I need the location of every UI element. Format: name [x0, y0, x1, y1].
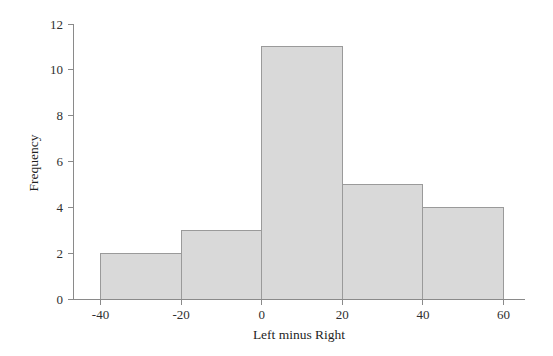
- histogram-bar: [342, 185, 423, 300]
- y-tick-label: 10: [50, 62, 63, 77]
- x-tick-label: -40: [92, 307, 109, 322]
- histogram-bars: [101, 47, 504, 300]
- y-axis-title: Frequency: [26, 134, 41, 191]
- histogram-bar: [101, 254, 182, 300]
- y-tick-label: 0: [57, 292, 64, 307]
- x-tick-label: 0: [258, 307, 265, 322]
- histogram-bar: [262, 47, 343, 300]
- x-tick-label: 60: [497, 307, 510, 322]
- y-axis-ticks: 121086420: [50, 17, 74, 308]
- x-tick-label: 40: [416, 307, 429, 322]
- x-tick-label: 20: [336, 307, 349, 322]
- histogram-bar: [181, 231, 262, 300]
- histogram-plot: 121086420 -40-200204060 Frequency Left m…: [0, 0, 553, 356]
- y-tick-label: 8: [57, 108, 64, 123]
- histogram-figure: 121086420 -40-200204060 Frequency Left m…: [0, 0, 553, 356]
- histogram-bar: [423, 208, 504, 300]
- y-tick-label: 6: [57, 154, 64, 169]
- x-axis-title: Left minus Right: [253, 327, 345, 342]
- y-tick-label: 2: [57, 246, 64, 261]
- y-tick-label: 4: [57, 200, 64, 215]
- y-tick-label: 12: [50, 17, 63, 32]
- x-axis-ticks: -40-200204060: [92, 300, 510, 323]
- x-tick-label: -20: [172, 307, 189, 322]
